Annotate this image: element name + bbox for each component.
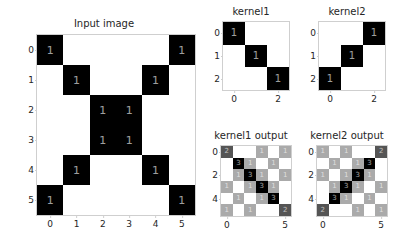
y-tick-label: 1	[214, 51, 220, 61]
heatmap-cell-value: 1	[152, 165, 159, 176]
y-tick-label: 1	[28, 75, 34, 85]
panel-kernel1-output: kernel1 output 21131113111131113112 0240…	[203, 128, 299, 248]
heatmap-cell-value: 1	[178, 195, 185, 206]
heatmap-cell: 1	[244, 204, 256, 216]
heatmap-cell	[363, 67, 385, 90]
heatmap-cell-value: 1	[225, 207, 229, 214]
kernel2-heatmap-grid: 111	[319, 22, 385, 90]
heatmap-cell: 1	[221, 181, 233, 193]
heatmap-cell: 1	[340, 169, 352, 181]
heatmap-cell-value: 2	[225, 148, 229, 155]
kernel2-title: kernel2	[299, 6, 395, 17]
heatmap-cell-value: 1	[47, 195, 54, 206]
heatmap-cell: 1	[169, 35, 195, 65]
heatmap-cell-value: 1	[271, 160, 275, 167]
heatmap-cell: 3	[233, 158, 245, 170]
heatmap-cell-value: 1	[248, 183, 252, 190]
heatmap-cell	[221, 158, 233, 170]
heatmap-cell: 1	[352, 181, 364, 193]
heatmap-cell	[375, 169, 387, 181]
heatmap-cell: 1	[90, 95, 116, 125]
heatmap-cell	[340, 204, 352, 216]
heatmap-cell-value: 1	[321, 172, 325, 179]
y-tick-label: 0	[310, 28, 316, 38]
heatmap-cell-value: 1	[344, 195, 348, 202]
x-tick-label: 0	[231, 94, 237, 104]
heatmap-cell: 1	[375, 181, 387, 193]
heatmap-cell	[341, 67, 363, 90]
x-tick-label: 0	[224, 220, 230, 230]
heatmap-cell	[364, 181, 376, 193]
heatmap-cell	[233, 204, 245, 216]
y-tick-label: 4	[212, 194, 218, 204]
heatmap-cell	[352, 146, 364, 158]
heatmap-cell-value: 3	[356, 172, 360, 179]
heatmap-cell	[223, 67, 245, 90]
heatmap-cell: 3	[352, 169, 364, 181]
heatmap-cell-value: 1	[73, 75, 80, 86]
heatmap-cell: 1	[142, 155, 168, 185]
heatmap-cell	[37, 125, 63, 155]
heatmap-cell	[63, 125, 89, 155]
x-tick-label: 5	[282, 220, 288, 230]
heatmap-cell: 1	[256, 169, 268, 181]
heatmap-cell	[279, 193, 291, 205]
heatmap-cell: 1	[279, 169, 291, 181]
heatmap-cell-value: 1	[271, 183, 275, 190]
heatmap-cell	[169, 155, 195, 185]
heatmap-cell-value: 1	[260, 195, 264, 202]
heatmap-cell-value: 1	[283, 148, 287, 155]
heatmap-cell-value: 1	[356, 183, 360, 190]
heatmap-cell: 1	[317, 146, 329, 158]
heatmap-cell-value: 1	[356, 207, 360, 214]
heatmap-cell: 3	[256, 181, 268, 193]
y-tick-label: 5	[28, 195, 34, 205]
heatmap-cell-value: 1	[367, 172, 371, 179]
heatmap-cell: 1	[329, 158, 341, 170]
heatmap-cell	[223, 45, 245, 68]
heatmap-cell: 1	[221, 204, 233, 216]
y-tick-label: 3	[28, 135, 34, 145]
heatmap-cell-value: 1	[231, 28, 237, 38]
heatmap-cell: 1	[90, 125, 116, 155]
heatmap-cell-value: 1	[379, 207, 383, 214]
heatmap-cell	[352, 193, 364, 205]
heatmap-cell	[37, 155, 63, 185]
heatmap-cell: 1	[116, 95, 142, 125]
heatmap-cell: 3	[340, 181, 352, 193]
heatmap-cell	[319, 22, 341, 45]
heatmap-cell-value: 1	[332, 183, 336, 190]
heatmap-cell: 1	[245, 45, 267, 68]
x-tick-label: 1	[74, 219, 80, 229]
heatmap-cell-value: 1	[356, 160, 360, 167]
heatmap-cell-value: 1	[344, 148, 348, 155]
heatmap-cell-value: 1	[332, 160, 336, 167]
x-tick-label: 2	[371, 94, 377, 104]
heatmap-cell	[142, 35, 168, 65]
heatmap-cell: 1	[244, 181, 256, 193]
y-tick-label: 2	[28, 105, 34, 115]
heatmap-cell: 1	[267, 67, 289, 90]
heatmap-cell-value: 3	[344, 183, 348, 190]
heatmap-cell	[329, 146, 341, 158]
heatmap-cell-value: 1	[47, 45, 54, 56]
heatmap-cell: 2	[221, 146, 233, 158]
heatmap-cell-value: 1	[327, 74, 333, 84]
heatmap-cell: 1	[37, 185, 63, 215]
heatmap-cell: 3	[364, 158, 376, 170]
input-image-axes: 111111111111 012345012345	[36, 34, 196, 216]
y-tick-label: 2	[212, 170, 218, 180]
heatmap-cell	[63, 95, 89, 125]
heatmap-cell	[256, 158, 268, 170]
heatmap-cell	[267, 22, 289, 45]
x-tick-label: 2	[275, 94, 281, 104]
heatmap-cell	[363, 45, 385, 68]
heatmap-cell-value: 3	[236, 160, 240, 167]
x-tick-label: 0	[320, 220, 326, 230]
kernel2-output-heatmap-grid: 11211311311311311211	[317, 146, 387, 216]
heatmap-cell	[375, 158, 387, 170]
heatmap-cell: 2	[375, 146, 387, 158]
heatmap-cell-value: 1	[236, 172, 240, 179]
heatmap-cell: 1	[341, 45, 363, 68]
heatmap-cell: 2	[317, 204, 329, 216]
